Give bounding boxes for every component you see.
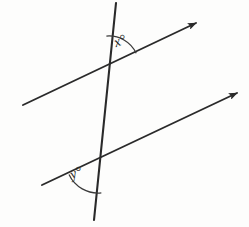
- geometry-canvas: [0, 0, 249, 227]
- geometry-figure: x° y°: [0, 0, 249, 227]
